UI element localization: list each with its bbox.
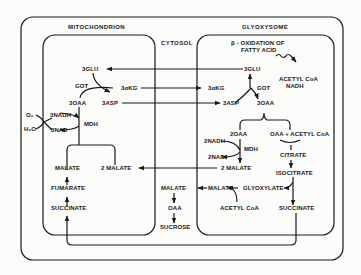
glyox-isocitrate: ISOCITRATE <box>276 170 313 176</box>
glyox-acetyl-coa-top: ACETYL CoA <box>279 76 318 82</box>
mito-h2o: H₂O <box>24 126 36 132</box>
mito-glu: 3GLU <box>82 66 98 72</box>
glyox-2-malate: 2 MALATE <box>221 165 251 171</box>
cytosol-malate: MALATE <box>161 185 186 191</box>
mito-mdh: MDH <box>84 121 98 127</box>
glyox-malate: MALATE <box>208 185 233 191</box>
mito-oaa: 3OAA <box>69 100 86 106</box>
mito-malate: MALATE <box>55 165 80 171</box>
cytosol-sucrose: SUCROSE <box>160 224 190 230</box>
glyox-oaa-acetyl-coa: OAA + ACETYL CoA <box>270 131 329 137</box>
mito-2-malate: 2 MALATE <box>101 165 131 171</box>
glyox-akg: 3αKG <box>208 85 224 91</box>
glyox-2nadh: 2NADH <box>204 138 225 144</box>
mito-nad: 3NAD <box>51 127 68 133</box>
glyoxysome-title: GLYOXYSOME <box>242 24 288 30</box>
mito-succinate: SUCCINATE <box>51 205 86 211</box>
glyox-glu: 3GLU <box>244 66 260 72</box>
mito-asp: 3ASP <box>102 100 118 106</box>
mitochondrion-title: MITOCHONDRION <box>68 24 125 30</box>
glyox-asp: 3ASP <box>223 100 239 106</box>
glyox-beta-oxidation-line1: β - OXIDATION OF <box>231 40 284 46</box>
mito-o2: O₂ <box>26 112 34 118</box>
glyox-nadh-top: NADH <box>286 83 304 89</box>
glyox-beta-oxidation-line2: FATTY ACID <box>241 47 277 53</box>
glyox-oaa: 3OAA <box>257 100 274 106</box>
mito-nadh: 3NADH <box>50 112 71 118</box>
glyox-succinate: SUCCINATE <box>279 205 314 211</box>
glyox-glyoxylate: GLYOXYLATE <box>243 185 284 191</box>
glyoxylate-cycle-diagram: MITOCHONDRION CYTOSOL GLYOXYSOME 3GLU GO… <box>0 0 361 275</box>
cytosol-oaa: OAA <box>168 205 182 211</box>
mito-got: GOT <box>75 83 88 89</box>
glyox-acetyl-coa-bottom: ACETYL CoA <box>220 205 259 211</box>
glyox-mdh: MDH <box>244 146 258 152</box>
mito-akg: 3αKG <box>121 85 137 91</box>
glyox-2oaa: 2OAA <box>230 131 247 137</box>
glyox-got: GOT <box>257 85 270 91</box>
mito-fumarate: FUMARATE <box>51 185 85 191</box>
glyox-2nad: 2NAD <box>208 154 225 160</box>
glyox-citrate: CITRATE <box>280 152 306 158</box>
cytosol-title: CYTOSOL <box>161 40 193 46</box>
